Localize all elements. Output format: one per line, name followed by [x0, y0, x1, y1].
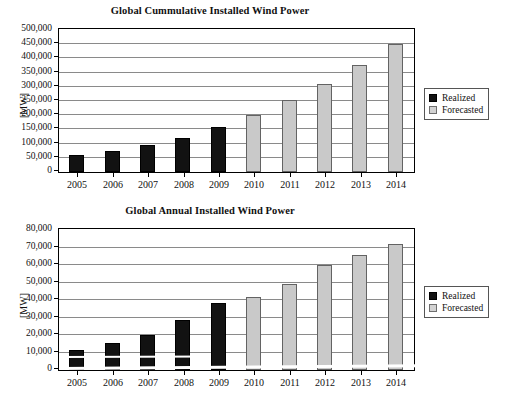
- y-tick-mark: [54, 71, 58, 72]
- annual-wind-power-chart: Global Annual Installed Wind Power [MW] …: [0, 200, 510, 406]
- x-tick-label: 2006: [93, 179, 133, 190]
- bar-realized-2006: [105, 343, 120, 370]
- x-tick-mark: [254, 371, 255, 375]
- y-tick-mark: [54, 156, 58, 157]
- x-tick-label: 2010: [234, 179, 274, 190]
- legend-swatch-forecasted-icon: [429, 304, 437, 312]
- y-tick-label: 0: [0, 364, 52, 374]
- bar-realized-2009: [211, 127, 226, 172]
- bar-forecasted-2012: [317, 265, 332, 370]
- bar-forecasted-2011: [282, 284, 297, 370]
- y-tick-mark: [54, 127, 58, 128]
- y-tick-mark: [54, 333, 58, 334]
- x-tick-mark: [219, 371, 220, 375]
- bar-realized-2008: [175, 138, 190, 172]
- x-tick-mark: [77, 173, 78, 177]
- x-tick-label: 2013: [341, 377, 381, 388]
- bar-realized-2005: [69, 350, 84, 370]
- bar-forecasted-2010: [246, 297, 261, 371]
- x-tick-label: 2009: [199, 377, 239, 388]
- x-tick-mark: [325, 173, 326, 177]
- y-tick-label: 400,000: [0, 52, 52, 62]
- x-tick-label: 2007: [128, 179, 168, 190]
- x-tick-mark: [290, 371, 291, 375]
- legend-swatch-realized-icon: [429, 94, 437, 102]
- bar-realized-2009: [211, 303, 226, 370]
- y-tick-label: 150,000: [0, 123, 52, 133]
- y-tick-label: 100,000: [0, 138, 52, 148]
- y-tick-mark: [54, 298, 58, 299]
- legend-item-forecasted: Forecasted: [429, 302, 483, 314]
- y-tick-label: 250,000: [0, 95, 52, 105]
- y-tick-mark: [54, 351, 58, 352]
- y-tick-mark: [54, 170, 58, 171]
- legend-swatch-realized-icon: [429, 292, 437, 300]
- bar-realized-2005: [69, 155, 84, 172]
- bar-forecasted-2013: [352, 255, 367, 370]
- y-tick-mark: [54, 113, 58, 114]
- y-tick-label: 200,000: [0, 109, 52, 119]
- x-tick-mark: [148, 173, 149, 177]
- y-tick-label: 300,000: [0, 81, 52, 91]
- bar-realized-2007: [140, 335, 155, 370]
- plot-area-annual: [58, 228, 415, 371]
- y-tick-mark: [54, 99, 58, 100]
- y-tick-mark: [54, 281, 58, 282]
- x-tick-mark: [148, 371, 149, 375]
- y-tick-label: 30,000: [0, 312, 52, 322]
- x-tick-mark: [361, 371, 362, 375]
- legend-item-realized: Realized: [429, 290, 483, 302]
- x-tick-label: 2013: [341, 179, 381, 190]
- y-tick-mark: [54, 142, 58, 143]
- x-tick-mark: [254, 173, 255, 177]
- y-tick-mark: [54, 85, 58, 86]
- chart-title-cumulative: Global Cummulative Installed Wind Power: [0, 5, 420, 16]
- bar-realized-2008: [175, 320, 190, 370]
- plot-area-cumulative: [58, 28, 415, 173]
- cumulative-wind-power-chart: Global Cummulative Installed Wind Power …: [0, 0, 510, 200]
- y-tick-label: 350,000: [0, 67, 52, 77]
- bar-series-annual: [59, 229, 414, 370]
- legend-cumulative: Realized Forecasted: [424, 88, 489, 120]
- legend-label-forecasted: Forecasted: [442, 303, 483, 314]
- y-tick-label: 50,000: [0, 277, 52, 287]
- y-tick-mark: [54, 368, 58, 369]
- bar-forecasted-2012: [317, 84, 332, 172]
- legend-annual: Realized Forecasted: [424, 286, 489, 318]
- x-tick-mark: [290, 173, 291, 177]
- bar-forecasted-2011: [282, 100, 297, 172]
- x-tick-label: 2005: [57, 377, 97, 388]
- bar-forecasted-2014: [388, 44, 403, 172]
- y-tick-label: 80,000: [0, 224, 52, 234]
- x-tick-label: 2009: [199, 179, 239, 190]
- x-tick-mark: [325, 371, 326, 375]
- legend-label-realized: Realized: [442, 93, 475, 104]
- x-tick-label: 2010: [234, 377, 274, 388]
- y-tick-mark: [54, 263, 58, 264]
- x-tick-mark: [184, 173, 185, 177]
- legend-label-realized: Realized: [442, 291, 475, 302]
- y-tick-label: 70,000: [0, 242, 52, 252]
- x-tick-label: 2012: [305, 377, 345, 388]
- y-tick-mark: [54, 42, 58, 43]
- x-tick-mark: [396, 371, 397, 375]
- x-tick-label: 2014: [376, 377, 416, 388]
- y-tick-label: 10,000: [0, 347, 52, 357]
- y-tick-label: 50,000: [0, 152, 52, 162]
- x-tick-label: 2008: [164, 377, 204, 388]
- legend-item-realized: Realized: [429, 92, 483, 104]
- x-tick-label: 2012: [305, 179, 345, 190]
- y-tick-mark: [54, 56, 58, 57]
- x-tick-label: 2011: [270, 179, 310, 190]
- x-tick-label: 2008: [164, 179, 204, 190]
- x-tick-label: 2007: [128, 377, 168, 388]
- x-tick-mark: [219, 173, 220, 177]
- x-tick-label: 2005: [57, 179, 97, 190]
- x-tick-mark: [396, 173, 397, 177]
- y-tick-label: 500,000: [0, 24, 52, 34]
- y-tick-label: 60,000: [0, 259, 52, 269]
- legend-swatch-forecasted-icon: [429, 106, 437, 114]
- x-tick-mark: [77, 371, 78, 375]
- bar-forecasted-2014: [388, 244, 403, 370]
- bar-realized-2007: [140, 145, 155, 172]
